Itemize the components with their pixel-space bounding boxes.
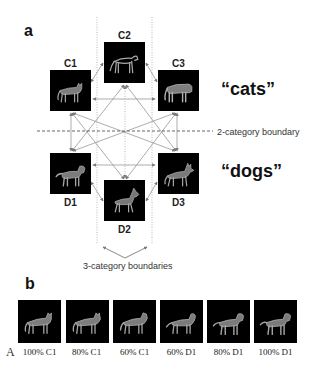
morph-step-3-image [113, 300, 156, 343]
node-c1-image [50, 70, 91, 111]
morph-step-1-image [18, 300, 61, 343]
morph-step-2-label: 80% C1 [63, 347, 110, 357]
dog-icon [50, 153, 91, 194]
morph-step-6-image [254, 300, 297, 343]
category-label-cats: “cats” [221, 80, 275, 98]
cat-morph-icon [66, 300, 109, 343]
panel-b-label: b [25, 276, 35, 292]
cheetah-icon [104, 42, 145, 83]
node-label-d2: D2 [104, 225, 145, 235]
morph-step-1-label: 100% C1 [16, 347, 63, 357]
shepherd-dog-icon [158, 153, 199, 194]
morph-step-4-label: 60% D1 [158, 347, 205, 357]
corner-mark: A [6, 346, 15, 358]
panel-a-label: a [24, 23, 33, 39]
node-d3-image [158, 153, 199, 194]
node-label-d1: D1 [50, 198, 91, 208]
cat-dog-morph-icon [113, 300, 156, 343]
dog-cat-morph-icon [160, 300, 203, 343]
node-d2-image [104, 180, 145, 221]
node-label-c2: C2 [104, 31, 145, 41]
morph-step-6-label: 100% D1 [252, 347, 299, 357]
node-c3-image [158, 70, 199, 111]
morph-step-5-image [207, 300, 250, 343]
node-c2-image [104, 42, 145, 83]
node-label-c1: C1 [50, 59, 91, 69]
node-label-d3: D3 [158, 198, 199, 208]
morph-step-2-image [66, 300, 109, 343]
doberman-icon [104, 180, 145, 221]
tiger-icon [158, 70, 199, 111]
node-label-c3: C3 [158, 59, 199, 69]
cat-icon [50, 70, 91, 111]
dog-morph-icon [254, 300, 297, 343]
three-category-boundaries-label: 3-category boundaries [83, 261, 173, 271]
category-label-dogs: “dogs” [221, 162, 282, 180]
morph-step-4-image [160, 300, 203, 343]
morph-step-5-label: 80% D1 [205, 347, 252, 357]
morph-step-3-label: 60% C1 [111, 347, 158, 357]
two-category-boundary-label: 2-category boundary [217, 127, 300, 137]
cat-morph-icon [18, 300, 61, 343]
dog-morph-icon [207, 300, 250, 343]
node-d1-image [50, 153, 91, 194]
